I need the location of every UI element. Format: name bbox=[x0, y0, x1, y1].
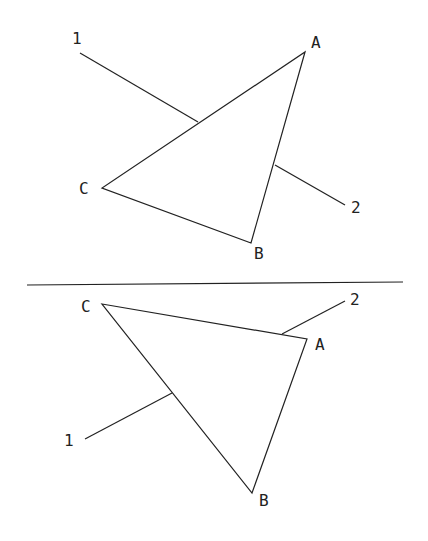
top-label-2: 2 bbox=[351, 198, 361, 217]
bottom-label-B: B bbox=[259, 491, 269, 510]
bottom-label-1: 1 bbox=[64, 431, 74, 450]
top-label-B: B bbox=[254, 244, 264, 263]
top-line-1 bbox=[80, 53, 198, 122]
bottom-label-A: A bbox=[315, 335, 325, 354]
bottom-line-1 bbox=[85, 393, 172, 439]
top-label-1: 1 bbox=[72, 29, 82, 48]
bottom-figure: C 2 A 1 B bbox=[64, 290, 360, 510]
triangle-diagram: 1 A C 2 B C 2 A 1 B bbox=[0, 0, 428, 541]
top-label-C: C bbox=[79, 179, 89, 198]
top-label-A: A bbox=[311, 33, 321, 52]
top-triangle bbox=[102, 52, 305, 243]
top-figure: 1 A C 2 B bbox=[72, 29, 361, 263]
bottom-triangle bbox=[102, 304, 307, 493]
top-line-2 bbox=[275, 165, 345, 205]
bottom-label-C: C bbox=[81, 297, 91, 316]
bottom-label-2: 2 bbox=[350, 290, 360, 309]
bottom-line-2 bbox=[282, 301, 345, 334]
divider-line bbox=[27, 282, 403, 285]
